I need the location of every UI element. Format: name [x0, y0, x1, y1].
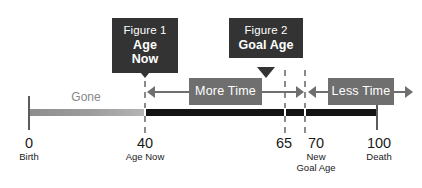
guide-line-age-65-lower — [284, 116, 286, 133]
tick-sub-new: New — [286, 151, 346, 162]
more-time-arrow-line-right — [262, 91, 297, 93]
callout-figure-1-line2: Age Now — [121, 38, 169, 68]
callout-figure-2-line2: Goal Age — [238, 38, 294, 53]
callout-figure-1: Figure 1 Age Now — [112, 18, 178, 73]
tick-label-new-goal-age: 70 New Goal Age — [286, 135, 346, 173]
more-time-arrow-line-left — [155, 91, 191, 93]
tick-value-40: 40 — [118, 135, 172, 151]
timeline-segment-remaining — [144, 109, 378, 116]
axis-end-cap-birth — [28, 96, 30, 130]
less-time-arrow-head-right — [405, 86, 413, 98]
tick-label-age-now: 40 Age Now — [118, 135, 172, 162]
tick-sub-death: Death — [355, 151, 403, 162]
less-time-arrow-line-right — [392, 91, 406, 93]
more-time-arrow-head-left — [147, 86, 155, 98]
guide-line-age-40-lower — [144, 116, 146, 133]
tick-value-0: 0 — [8, 135, 50, 151]
tick-sub-goal-age: Goal Age — [286, 162, 346, 173]
guide-line-age-70-upper — [304, 70, 306, 109]
timeline-segment-gone — [28, 109, 144, 116]
gone-label: Gone — [63, 90, 109, 104]
guide-line-age-70-lower — [304, 116, 306, 133]
less-time-arrow-head-left — [308, 86, 316, 98]
span-label-more-time: More Time — [189, 78, 262, 105]
guide-line-age-65-upper — [284, 70, 286, 109]
more-time-arrow-head-right — [296, 86, 304, 98]
tick-sub-birth: Birth — [8, 151, 50, 162]
callout-figure-2: Figure 2 Goal Age — [229, 18, 303, 58]
tick-value-100: 100 — [355, 135, 403, 151]
life-timeline-diagram: Gone Figure 1 Age Now Figure 2 Goal Age … — [0, 0, 422, 188]
tick-label-death: 100 Death — [355, 135, 403, 162]
callout-figure-1-pointer — [136, 67, 154, 78]
callout-figure-1-line1: Figure 1 — [121, 24, 169, 38]
tick-label-birth: 0 Birth — [8, 135, 50, 162]
tick-sub-age-now: Age Now — [118, 151, 172, 162]
callout-figure-2-line1: Figure 2 — [238, 24, 294, 38]
callout-figure-2-pointer — [257, 67, 275, 78]
span-label-less-time: Less Time — [328, 78, 394, 105]
tick-value-70: 70 — [286, 135, 346, 151]
